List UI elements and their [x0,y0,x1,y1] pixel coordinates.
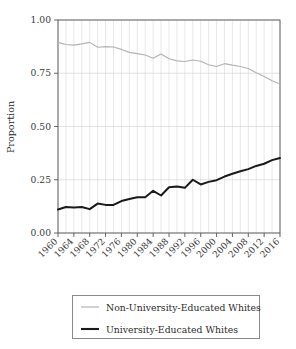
x-axis: 1960196419681972197619801984198819921996… [36,233,281,260]
y-tick-label: 0.00 [31,227,52,238]
legend: Non-University-Educated Whites Universit… [72,295,260,339]
y-axis-title: Proportion [5,101,16,153]
legend-label-non-university: Non-University-Educated Whites [106,302,261,313]
y-axis: 0.000.250.500.751.00 [31,14,58,238]
figure: 0.000.250.500.751.00 1960196419681972197… [0,0,296,349]
legend-label-university: University-Educated Whites [106,324,238,335]
legend-item-university: University-Educated Whites [73,318,259,340]
legend-item-non-university: Non-University-Educated Whites [73,296,259,318]
y-tick-label: 1.00 [31,14,52,25]
y-tick-label: 0.50 [31,121,52,132]
legend-swatch-non-university-line [80,302,100,312]
y-tick-label: 0.75 [31,67,52,78]
y-tick-label: 0.25 [31,174,52,185]
legend-swatch-university-line [80,324,100,334]
